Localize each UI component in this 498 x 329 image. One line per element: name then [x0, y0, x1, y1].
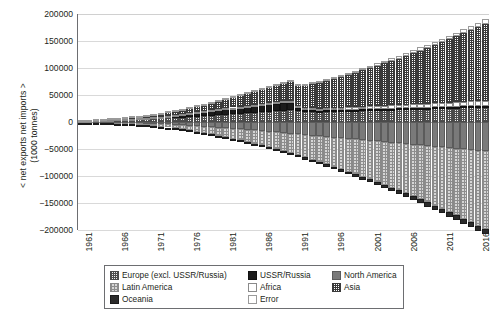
bar-segment-asia — [403, 56, 410, 105]
x-axis-tick-label: 1981 — [228, 232, 238, 252]
bar-segment-oceania — [410, 196, 417, 200]
bar-segment-latin — [417, 145, 424, 199]
legend-item-africa[interactable]: Africa — [248, 282, 332, 292]
bar-segment-asia — [453, 36, 460, 102]
legend-item-latin[interactable]: Latin America — [110, 282, 248, 292]
bar-segment-oceania — [114, 124, 121, 126]
bar-segment-asia — [295, 85, 302, 106]
bar-segment-error — [287, 80, 294, 82]
bar-segment-ussr — [309, 110, 316, 112]
bar-segment-latin — [251, 130, 258, 143]
bar-segment-europe — [237, 114, 244, 122]
bar-segment-africa — [259, 104, 266, 106]
bar-column — [129, 14, 136, 230]
bar-column — [273, 14, 280, 230]
bar-segment-africa — [230, 108, 237, 110]
legend-row: Latin AmericaAfricaAsia — [110, 281, 398, 293]
legend-item-asia[interactable]: Asia — [332, 282, 360, 292]
bar-segment-ussr — [410, 108, 417, 110]
bar-column — [85, 14, 92, 230]
bar-segment-africa — [424, 104, 431, 108]
bar-segment-africa — [143, 118, 150, 120]
bar-segment-africa — [381, 106, 388, 109]
bar-segment-error — [424, 45, 431, 48]
bar-segment-europe — [359, 111, 366, 122]
bar-segment-northam — [453, 122, 460, 149]
bar-segment-oceania — [367, 179, 374, 182]
bar-segment-error — [222, 98, 229, 100]
legend-item-ussr[interactable]: USSR/Russia — [248, 270, 332, 280]
bar-segment-europe — [215, 115, 222, 122]
legend-swatch-oceania — [110, 295, 119, 304]
bar-segment-europe — [244, 113, 251, 122]
bar-segment-europe — [345, 111, 352, 122]
bar-segment-northam — [338, 122, 345, 138]
bar-segment-europe — [280, 111, 287, 122]
bar-column — [367, 14, 374, 230]
bar-segment-asia — [345, 75, 352, 108]
bar-segment-europe — [331, 112, 338, 122]
bar-segment-ussr — [295, 108, 302, 111]
bar-segment-error — [129, 116, 136, 118]
bar-segment-oceania — [460, 219, 467, 224]
bar-segment-ussr — [403, 108, 410, 110]
legend-item-error[interactable]: Error — [248, 294, 332, 304]
bar-column — [352, 14, 359, 230]
legend-item-europe[interactable]: Europe (excl. USSR/Russia) — [110, 270, 248, 280]
bar-column — [158, 14, 165, 230]
bar-segment-europe — [468, 107, 475, 122]
bar-segment-africa — [129, 119, 136, 121]
bar-segment-asia — [331, 79, 338, 108]
bar-segment-europe — [374, 110, 381, 122]
bar-segment-oceania — [287, 153, 294, 155]
bar-segment-europe — [381, 110, 388, 122]
bar-segment-africa — [280, 101, 287, 103]
bar-segment-ussr — [359, 109, 366, 111]
bar-column — [150, 14, 157, 230]
legend-label: Oceania — [122, 294, 153, 304]
bar-column — [136, 14, 143, 230]
x-axis-tick-label: 1996 — [336, 232, 346, 252]
bar-column — [475, 14, 482, 230]
bar-column — [359, 14, 366, 230]
legend-item-oceania[interactable]: Oceania — [110, 294, 248, 304]
bar-segment-asia — [367, 68, 374, 106]
bar-segment-africa — [468, 101, 475, 106]
bar-segment-oceania — [129, 124, 136, 126]
bar-segment-latin — [215, 128, 222, 136]
bar-column — [468, 14, 475, 230]
legend-swatch-latin — [110, 283, 119, 292]
x-axis-tick-label: 1961 — [84, 232, 94, 252]
gridline — [78, 230, 489, 231]
bar-segment-africa — [367, 106, 374, 109]
bar-segment-error — [136, 116, 143, 118]
bar-segment-error — [331, 77, 338, 79]
bar-segment-error — [338, 75, 345, 77]
bar-segment-oceania — [143, 125, 150, 127]
bar-column — [107, 14, 114, 230]
bar-segment-africa — [475, 101, 482, 106]
bar-segment-error — [475, 23, 482, 27]
bar-segment-africa — [316, 109, 323, 111]
bar-segment-northam — [323, 122, 330, 137]
bar-segment-oceania — [309, 160, 316, 162]
bar-segment-error — [172, 110, 179, 112]
bar-segment-africa — [295, 106, 302, 108]
bar-segment-europe — [460, 107, 467, 122]
bar-segment-latin — [338, 138, 345, 169]
legend-swatch-error — [248, 295, 257, 304]
bar-segment-ussr — [352, 110, 359, 112]
bar-segment-error — [114, 118, 121, 120]
bar-column — [338, 14, 345, 230]
x-axis-tick-label: 1991 — [300, 232, 310, 252]
legend-item-northam[interactable]: North America — [332, 270, 397, 280]
bar-segment-northam — [410, 122, 417, 145]
bar-segment-northam — [381, 122, 388, 142]
legend-label: Africa — [260, 282, 281, 292]
bar-segment-error — [417, 47, 424, 50]
bar-segment-africa — [374, 106, 381, 109]
bar-segment-europe — [424, 108, 431, 122]
bar-segment-africa — [273, 102, 280, 104]
bar-segment-asia — [251, 91, 258, 105]
bar-segment-ussr — [259, 105, 266, 112]
